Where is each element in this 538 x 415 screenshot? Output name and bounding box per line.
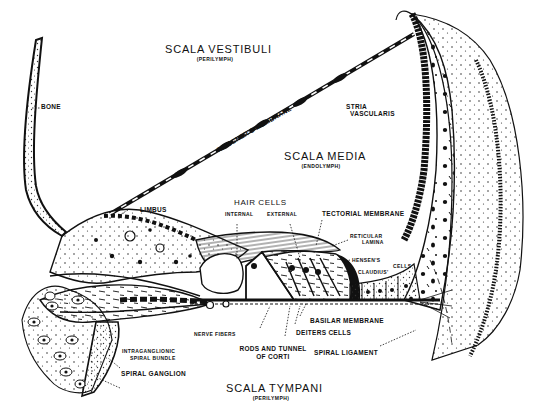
label-tectorial-membrane: TECTORIAL MEMBRANE: [322, 211, 404, 218]
label-vascularis: VASCULARIS: [350, 111, 395, 118]
label-hair-cells: HAIR CELLS: [234, 199, 287, 207]
label-basilar-membrane: BASILAR MEMBRANE: [310, 318, 384, 325]
label-nerve-fibers: NERVE FIBERS: [194, 332, 236, 337]
scala-media-title: SCALA MEDIA: [284, 151, 358, 162]
scala-vestibuli-fluid: (PERILYMPH): [165, 57, 265, 62]
label-hensens: HENSEN'S: [352, 258, 381, 263]
label-intraganglionic: INTRAGANGLIONIC: [122, 349, 175, 354]
label-claudius: CLAUDIUS': [358, 270, 389, 275]
scala-tympani-title: SCALA TYMPANI: [226, 383, 316, 394]
scala-vestibuli-title: SCALA VESTIBULI: [165, 44, 265, 55]
label-internal: INTERNAL: [225, 212, 253, 217]
lateral-wall: [396, 11, 523, 360]
label-limbus: LIMBUS: [140, 207, 167, 214]
rods-tunnel-line1: RODS AND TUNNEL: [230, 346, 316, 353]
label-spiral-ganglion: SPIRAL GANGLION: [121, 371, 186, 378]
label-scala-vestibuli: SCALA VESTIBULI (PERILYMPH): [165, 44, 265, 62]
label-scala-media: SCALA MEDIA (ENDOLYMPH): [284, 151, 358, 169]
bone-wall-left: [24, 38, 66, 236]
label-cells: CELLS: [393, 264, 411, 269]
label-spiral-bundle: SPIRAL BUNDLE: [130, 356, 176, 361]
label-external: EXTERNAL: [267, 212, 297, 217]
label-bone: BONE: [41, 104, 61, 111]
scala-media-fluid: (ENDOLYMPH): [284, 164, 358, 169]
label-spiral-ligament: SPIRAL LIGAMENT: [314, 350, 378, 357]
scala-tympani-fluid: (PERILYMPH): [226, 396, 316, 401]
rods-tunnel-line2: OF CORTI: [230, 354, 316, 361]
label-deiters-cells: DEITERS CELLS: [296, 330, 351, 337]
label-lamina: LAMINA: [362, 240, 384, 245]
cochlea-diagram: SCALA VESTIBULI (PERILYMPH) SCALA MEDIA …: [0, 0, 538, 415]
label-scala-tympani: SCALA TYMPANI (PERILYMPH): [226, 383, 316, 401]
organ-of-corti: [200, 251, 420, 300]
label-rods-tunnel: RODS AND TUNNEL OF CORTI: [230, 346, 316, 360]
